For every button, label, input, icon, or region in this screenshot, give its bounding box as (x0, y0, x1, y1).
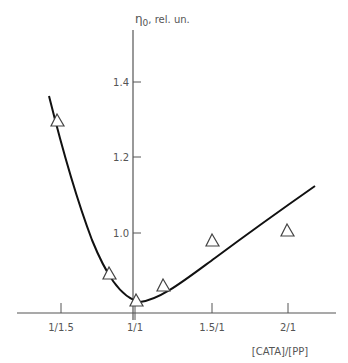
x-tick-label: 2/1 (280, 322, 296, 333)
triangle-marker (206, 234, 219, 246)
x-tick-label: 1.5/1 (199, 322, 225, 333)
x-axis-label: [CATA]/[PP] (252, 346, 308, 357)
x-tick-label: 1/1 (127, 322, 143, 333)
data-points (51, 114, 294, 306)
triangle-marker (51, 114, 64, 126)
y-axis-label: η0, rel. un. (135, 12, 190, 28)
fit-curve (49, 96, 315, 302)
chart: 1/1.5 1/1 1.5/1 2/1 1.0 1.2 1.4 η0, rel.… (0, 0, 348, 363)
y-tick-label: 1.2 (113, 152, 129, 163)
triangle-marker (157, 279, 170, 291)
triangle-marker (281, 224, 294, 236)
y-ticks: 1.0 1.2 1.4 (113, 77, 141, 239)
x-tick-label: 1/1.5 (48, 322, 74, 333)
y-tick-label: 1.0 (113, 228, 129, 239)
x-ticks: 1/1.5 1/1 1.5/1 2/1 (48, 303, 296, 333)
y-tick-label: 1.4 (113, 77, 129, 88)
